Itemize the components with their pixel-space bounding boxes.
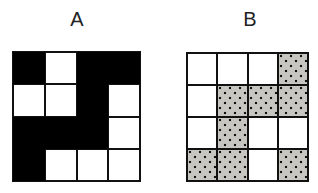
grid-cell-dotted <box>279 54 307 84</box>
grid-cell-white <box>218 54 246 84</box>
grid-cell-white <box>249 54 277 84</box>
grid-cell-black <box>108 52 140 84</box>
grid-cell-white <box>188 118 216 148</box>
grid-cell-white <box>109 150 139 180</box>
grid-cell-white <box>249 150 277 180</box>
panel-a-label: A <box>57 8 97 31</box>
grid-cell-black <box>13 149 45 181</box>
grid-cell-dotted <box>218 118 246 148</box>
grid-cell-dotted <box>218 86 246 116</box>
grid-b <box>186 52 309 182</box>
grid-cell-white <box>46 85 76 115</box>
grid-a <box>12 51 141 182</box>
grid-cell-black <box>77 117 109 149</box>
grid-cell-dotted <box>218 150 246 180</box>
grid-cell-dotted <box>279 86 307 116</box>
grid-cell-white <box>109 118 139 148</box>
grid-cell-white <box>249 118 277 148</box>
grid-cell-white <box>279 118 307 148</box>
grid-cell-black <box>13 117 45 149</box>
grid-cell-white <box>46 150 76 180</box>
grid-cell-white <box>14 85 44 115</box>
grid-cell-white <box>188 54 216 84</box>
grid-cell-dotted <box>279 150 307 180</box>
grid-cell-black <box>77 84 109 116</box>
grid-cell-dotted <box>249 86 277 116</box>
grid-cell-white <box>109 85 139 115</box>
grid-cell-white <box>78 150 108 180</box>
panel-b-label: B <box>230 8 270 31</box>
grid-cell-dotted <box>188 150 216 180</box>
grid-cell-white <box>46 53 76 83</box>
grid-cell-black <box>45 117 77 149</box>
grid-cell-white <box>188 86 216 116</box>
grid-cell-black <box>77 52 109 84</box>
grid-cell-black <box>13 52 45 84</box>
